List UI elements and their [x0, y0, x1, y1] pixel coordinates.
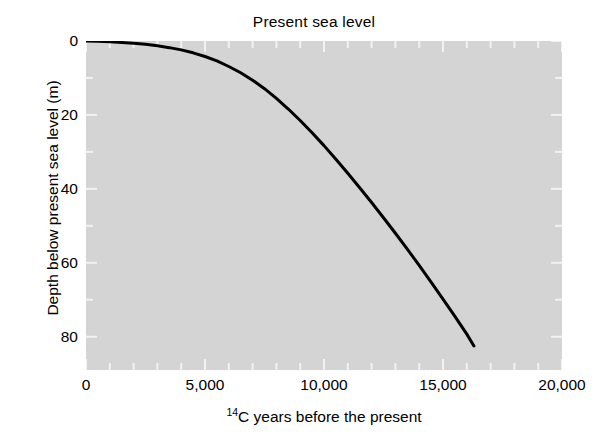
x-axis-label: 14C years before the present — [86, 408, 562, 426]
figure: Present sea level Depth below present se… — [0, 0, 600, 448]
x-tick-label: 5,000 — [145, 377, 265, 393]
x-tick-label: 10,000 — [264, 377, 384, 393]
x-tick-label: 15,000 — [383, 377, 503, 393]
x-axis-label-text: C years before the present — [238, 408, 422, 425]
x-axis-label-superscript: 14 — [226, 406, 238, 418]
x-tick-label-group: 05,00010,00015,00020,000 — [0, 0, 600, 448]
x-tick-label: 20,000 — [502, 377, 600, 393]
x-tick-label: 0 — [26, 377, 146, 393]
